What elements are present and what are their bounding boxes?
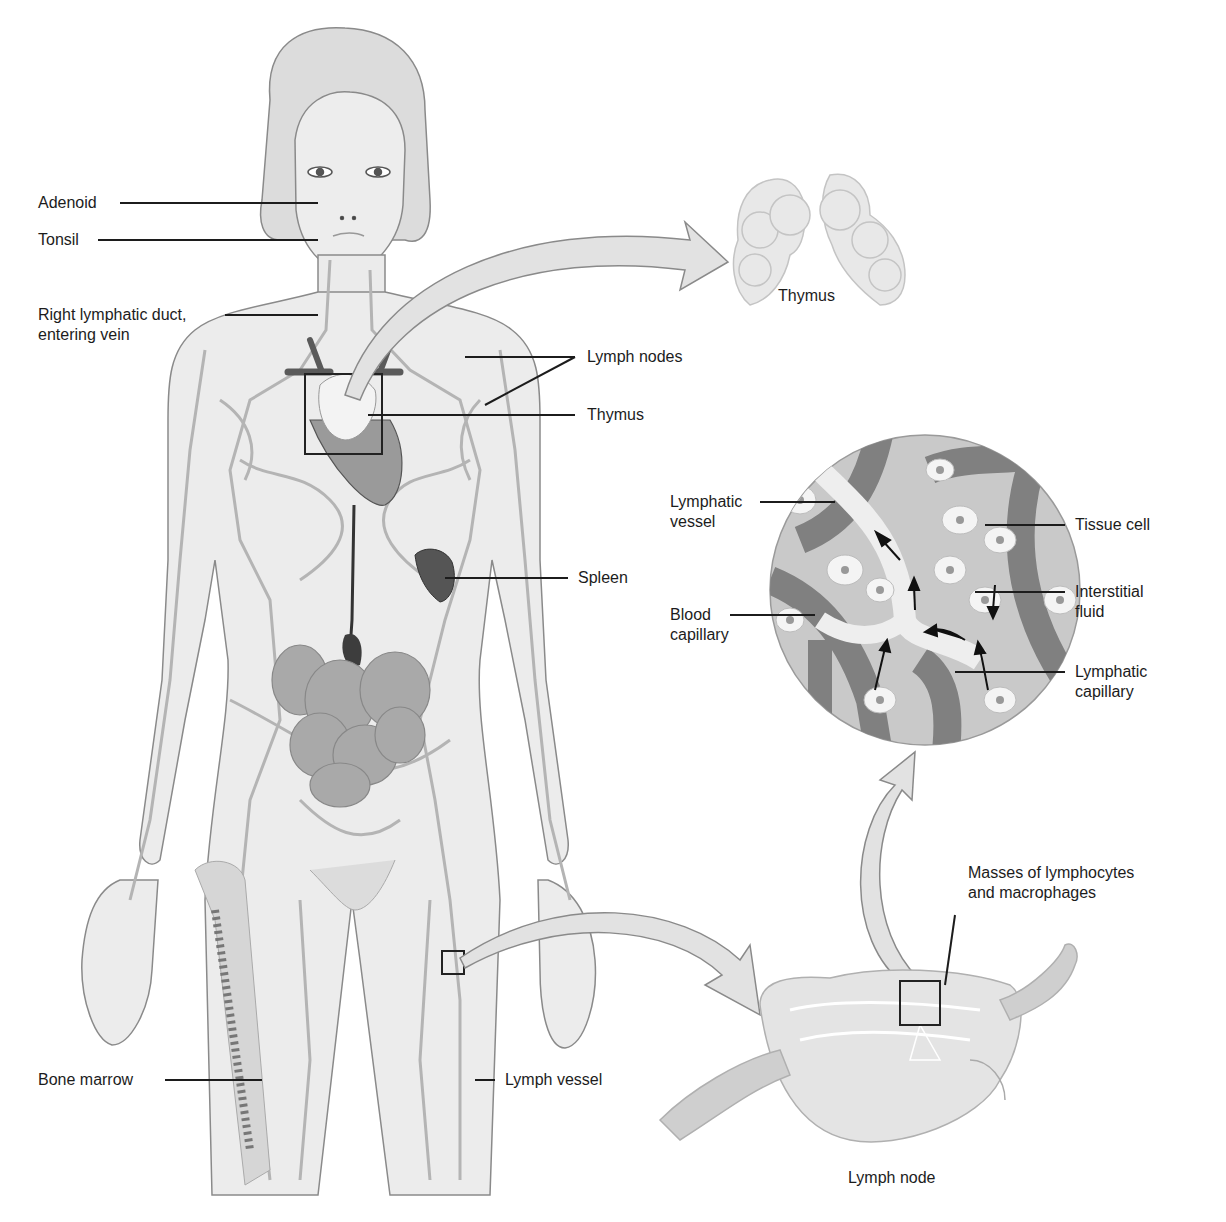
label-interstitial-fluid: Interstitial fluid [1075,582,1143,622]
label-bone-marrow: Bone marrow [38,1070,133,1090]
label-lymph-vessel: Lymph vessel [505,1070,602,1090]
label-lymph-node: Lymph node [848,1168,935,1188]
right-hand [538,880,595,1048]
label-adenoid: Adenoid [38,193,97,213]
label-masses-lymphocytes-macrophages: Masses of lymphocytes and macrophages [968,863,1134,903]
label-thymus-body: Thymus [587,405,644,425]
arrow-to-tissue-detail [861,752,918,985]
label-lymphatic-capillary: Lymphatic capillary [1075,662,1147,702]
label-right-lymphatic-duct: Right lymphatic duct, entering vein [38,305,187,345]
label-lymphatic-vessel: Lymphatic vessel [670,492,742,532]
label-tonsil: Tonsil [38,230,79,250]
label-blood-capillary: Blood capillary [670,605,729,645]
label-thymus-detail: Thymus [778,286,835,306]
tissue-detail-circle [770,430,1080,760]
left-hand [82,880,158,1045]
label-spleen: Spleen [578,568,628,588]
label-tissue-cell: Tissue cell [1075,515,1150,535]
label-lymph-nodes: Lymph nodes [587,347,682,367]
face [295,92,405,272]
arrow-to-lymph-node [460,913,760,1015]
lymphatic-system-diagram [0,0,1226,1222]
